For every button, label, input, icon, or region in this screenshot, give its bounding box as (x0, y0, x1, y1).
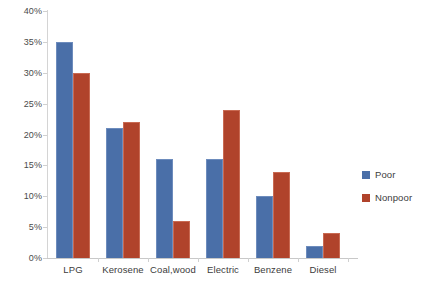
plot-area: 0%5%10%15%20%25%30%35%40% (48, 11, 348, 258)
x-axis-tick-label: Diesel (298, 264, 348, 275)
bar-group (298, 11, 348, 258)
x-axis-tick-label: Electric (198, 264, 248, 275)
legend-swatch-icon (362, 171, 370, 179)
y-axis-tick-label: 10% (24, 191, 48, 201)
bar-nonpoor[interactable] (323, 233, 340, 258)
bar-group (198, 11, 248, 258)
bar-poor[interactable] (306, 246, 323, 258)
bar-group (48, 11, 98, 258)
bar-chart: 0%5%10%15%20%25%30%35%40% PoorNonpoor LP… (0, 0, 421, 291)
y-axis-tick-label: 25% (24, 99, 48, 109)
legend-item-nonpoor[interactable]: Nonpoor (362, 192, 412, 203)
legend-swatch-icon (362, 194, 370, 202)
bar-poor[interactable] (206, 159, 223, 258)
bar-nonpoor[interactable] (123, 122, 140, 258)
y-axis-tick-label: 35% (24, 37, 48, 47)
bar-nonpoor[interactable] (273, 172, 290, 258)
x-axis-tick-mark (298, 258, 299, 262)
x-axis-line (47, 258, 358, 259)
x-axis-tick-label: LPG (48, 264, 98, 275)
bar-poor[interactable] (56, 42, 73, 258)
x-axis-tick-label: Coal,wood (148, 264, 198, 275)
y-axis-tick-label: 15% (24, 160, 48, 170)
legend-label: Poor (375, 169, 395, 180)
x-axis-tick-mark (198, 258, 199, 262)
bar-poor[interactable] (106, 128, 123, 258)
x-axis-tick-mark (248, 258, 249, 262)
x-axis-tick-mark (98, 258, 99, 262)
y-axis-tick-label: 5% (29, 222, 48, 232)
y-axis-tick-label: 0% (29, 253, 48, 263)
x-axis-tick-mark (148, 258, 149, 262)
bar-nonpoor[interactable] (223, 110, 240, 258)
x-axis-tick-label: Kerosene (98, 264, 148, 275)
bar-poor[interactable] (156, 159, 173, 258)
bar-group (248, 11, 298, 258)
legend-label: Nonpoor (375, 192, 412, 203)
bar-poor[interactable] (256, 196, 273, 258)
bar-group (148, 11, 198, 258)
x-axis-tick-label: Benzene (248, 264, 298, 275)
y-axis-tick-label: 40% (24, 6, 48, 16)
x-axis-tick-mark (348, 258, 349, 262)
y-axis-tick-label: 30% (24, 68, 48, 78)
bar-nonpoor[interactable] (173, 221, 190, 258)
legend-item-poor[interactable]: Poor (362, 169, 412, 180)
chart-legend: PoorNonpoor (362, 169, 412, 203)
y-axis-tick-label: 20% (24, 130, 48, 140)
bar-group (98, 11, 148, 258)
bar-nonpoor[interactable] (73, 73, 90, 258)
